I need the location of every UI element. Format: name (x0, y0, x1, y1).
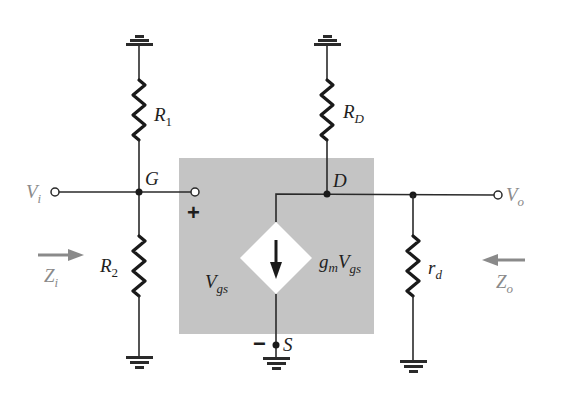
node-d (324, 191, 331, 198)
label-drain: D (332, 170, 347, 191)
gate-terminal (191, 188, 199, 196)
label-vi: Vi (26, 181, 42, 206)
label-zi: Zi (44, 265, 59, 290)
label-gate: G (145, 168, 159, 189)
node-g (136, 189, 143, 196)
label-minus: − (253, 331, 266, 356)
label-plus: + (187, 200, 200, 225)
ground-r2 (126, 356, 153, 369)
label-vo: Vo (506, 184, 525, 209)
zo-arrow-icon (482, 254, 525, 266)
label-zo: Zo (496, 271, 514, 296)
label-rd-small: rd (428, 257, 442, 282)
label-rd: RD (342, 101, 365, 126)
label-r2: R2 (99, 255, 118, 280)
ground-rd (314, 35, 341, 46)
label-r1: R1 (153, 104, 172, 129)
ground-rd-small (400, 360, 427, 373)
resistor-r2 (133, 236, 145, 296)
vo-terminal (494, 191, 502, 199)
circuit-diagram: R1 R2 RD rd G D S + − Vgs gmVgs Vi Vo Zi… (0, 0, 567, 402)
label-source: S (283, 334, 293, 355)
zi-arrow-icon (38, 249, 84, 261)
vi-terminal (51, 188, 59, 196)
resistor-rd (321, 80, 333, 140)
resistor-r1 (133, 80, 145, 140)
resistor-rd-small (407, 236, 419, 296)
ground-r1 (126, 35, 153, 46)
node-s (273, 342, 280, 349)
ground-s (263, 357, 290, 370)
